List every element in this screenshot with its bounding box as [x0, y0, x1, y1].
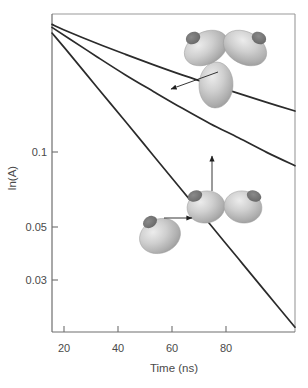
y-tick-label-0.05: 0.05 [26, 221, 47, 233]
x-tick-label-80: 80 [220, 342, 232, 354]
monomer-ellipsoid-icon [134, 212, 186, 259]
curve-monomer [52, 33, 295, 327]
chart-canvas: 20 40 60 80 Time (ns) 0.1 0.05 0.03 ln(A… [0, 0, 308, 388]
y-tick-label-0.1: 0.1 [32, 146, 47, 158]
trimer-lobe-bottom [198, 61, 234, 109]
y-tick-label-0.03: 0.03 [26, 274, 47, 286]
x-tick-label-40: 40 [112, 342, 124, 354]
y-axis-ticks [52, 152, 58, 280]
figure-container: 20 40 60 80 Time (ns) 0.1 0.05 0.03 ln(A… [0, 0, 308, 388]
x-axis-tick-labels: 20 40 60 80 [58, 342, 232, 354]
x-axis-title: Time (ns) [150, 362, 198, 374]
monomer-lobe [134, 212, 186, 259]
trimer-ellipsoid-cluster-icon [178, 23, 273, 109]
x-tick-label-20: 20 [58, 342, 70, 354]
y-axis-title: ln(A) [6, 166, 18, 190]
dimer-ellipsoid-cluster-icon [185, 188, 265, 226]
y-axis-tick-labels: 0.1 0.05 0.03 [26, 146, 47, 286]
data-curves [52, 24, 295, 327]
x-axis-ticks [64, 326, 226, 332]
x-tick-label-60: 60 [166, 342, 178, 354]
